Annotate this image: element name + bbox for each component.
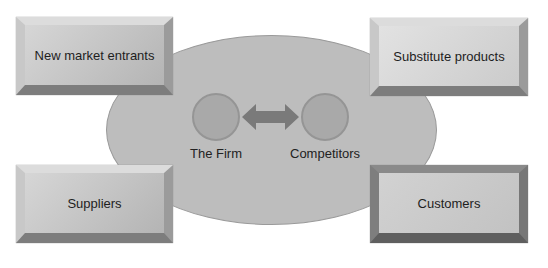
substitute-products-label: Substitute products [393,49,504,64]
suppliers-box: Suppliers [16,165,173,243]
firm-label: The Firm [190,146,242,161]
competitors-label: Competitors [290,146,360,161]
suppliers-label: Suppliers [67,196,121,211]
customers-box: Customers [370,165,528,243]
customers-label: Customers [418,196,481,211]
new-market-entrants-label: New market entrants [35,48,155,63]
new-market-entrants-box: New market entrants [16,17,173,95]
substitute-products-box: Substitute products [370,18,528,96]
